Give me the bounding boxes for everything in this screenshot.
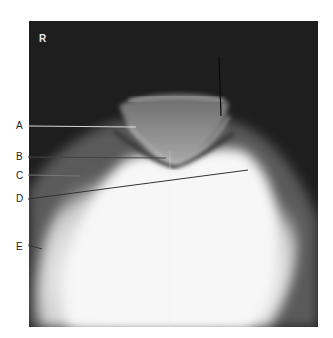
leader-line-c [28, 175, 80, 176]
label-e: E [16, 242, 23, 252]
label-c: C [16, 171, 23, 181]
label-d: D [16, 194, 23, 204]
leader-line-a [28, 126, 136, 127]
leader-line-e [28, 245, 42, 249]
leader-line-b [28, 157, 166, 158]
label-b: B [16, 152, 23, 162]
leader-line-d [28, 170, 248, 199]
label-a: A [16, 121, 23, 131]
leader-lines [0, 0, 333, 338]
